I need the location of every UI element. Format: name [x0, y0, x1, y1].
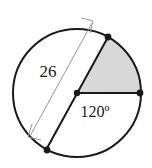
- geometry-figure: 26 120º: [0, 0, 152, 168]
- circle-sector-svg: 26 120º: [0, 0, 152, 168]
- sector-end-dot: [137, 90, 144, 97]
- central-angle-label: 120º: [81, 103, 110, 120]
- center-point-dot: [74, 90, 80, 96]
- diameter-end-dot: [44, 147, 51, 154]
- diameter-length-label: 26: [40, 62, 57, 81]
- dimension-tick-lower: [28, 124, 41, 140]
- shaded-sector: [77, 37, 141, 93]
- sector-start-dot: [105, 34, 112, 41]
